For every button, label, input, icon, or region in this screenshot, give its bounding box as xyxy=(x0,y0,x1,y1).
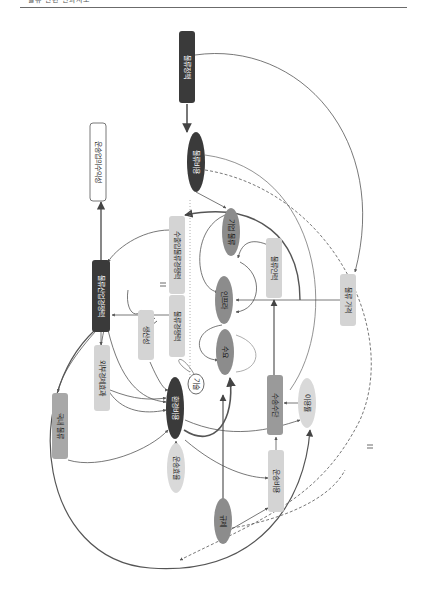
edge-inner-loop-4 xyxy=(236,335,256,372)
node-demand[interactable]: 수요 xyxy=(216,329,234,375)
node-enterprise-logistics[interactable]: 기업 물류 xyxy=(222,208,240,256)
node-label: 수출입물류경쟁력 xyxy=(173,231,182,279)
edge-domestic-to-env xyxy=(68,430,168,463)
node-label: 수요 xyxy=(221,346,229,359)
node-transport-cost[interactable]: 운송비용 xyxy=(268,450,284,512)
node-export-logistics-competitiveness[interactable]: 수출입물류경쟁력 xyxy=(169,216,185,294)
causal-loop-diagram: 물류정책 물류비용 운송업의수익성 수출입물류경쟁력 기업 물류 물류인력 xyxy=(0,0,427,589)
node-label: 외부경제효과 xyxy=(98,360,107,397)
node-label: 운송비용 xyxy=(272,469,281,494)
node-infrastructure[interactable]: 인프라 xyxy=(215,276,233,324)
node-label: 국내 물류 xyxy=(56,413,65,440)
edge-env-to-transcost xyxy=(185,440,268,478)
node-regulation[interactable]: 규제 xyxy=(214,498,232,544)
node-label: 생산성 xyxy=(142,326,151,344)
node-domestic-logistics[interactable]: 국내 물류 xyxy=(52,393,68,459)
node-label: 운송업의수익성 xyxy=(94,141,103,183)
node-usage-rate[interactable]: 이용률 xyxy=(298,378,316,428)
edge-ext-to-env xyxy=(110,390,166,399)
node-label: 수송수단 xyxy=(271,393,280,418)
edge-industry-to-env-2 xyxy=(101,330,166,412)
delay-marker-1 xyxy=(160,283,166,286)
edge-industry-to-env-1 xyxy=(108,330,166,402)
node-productivity[interactable]: 생산성 xyxy=(138,310,154,360)
node-label: 환경비용 xyxy=(171,396,180,421)
node-technology[interactable]: 기술 xyxy=(188,374,204,394)
node-label: 이용률 xyxy=(303,394,312,413)
node-label: 물류인력 xyxy=(270,256,279,280)
node-label: 운송효율 xyxy=(172,456,180,481)
edge-productivity-to-env xyxy=(150,362,168,390)
edge-industry-to-domestic xyxy=(58,332,95,392)
node-label: 물류비용 xyxy=(192,150,201,175)
node-label: 기업 물류 xyxy=(227,219,236,246)
node-logistics-cost[interactable]: 물류비용 xyxy=(187,132,205,192)
edge-cost-thick-arc xyxy=(185,212,300,300)
delay-marker-4 xyxy=(367,445,373,448)
edge-cost-to-enterprise xyxy=(196,192,226,208)
node-logistics-workforce[interactable]: 물류인력 xyxy=(266,238,282,298)
node-label: 인프라 xyxy=(220,291,229,310)
edge-inner-loop-3 xyxy=(236,262,257,312)
node-logistics-competitiveness[interactable]: 물류경쟁력 xyxy=(169,295,185,357)
node-label: 물류산업경쟁력 xyxy=(97,275,106,317)
node-logistics-price[interactable]: 물류 가격 xyxy=(340,274,356,326)
node-external-economy[interactable]: 외부경제효과 xyxy=(94,345,110,411)
node-label: 물류경쟁력 xyxy=(173,311,182,341)
edge-labor-to-enterprise xyxy=(238,242,268,258)
node-logistics-policy[interactable]: 물류정책 xyxy=(179,31,195,103)
edge-tech-loop xyxy=(179,359,194,374)
node-label: 물류정책 xyxy=(183,55,192,79)
node-transport-mode[interactable]: 수송수단 xyxy=(267,375,283,435)
node-transport-efficiency[interactable]: 운송효율 xyxy=(167,443,185,493)
node-transport-profitability[interactable]: 운송업의수익성 xyxy=(90,123,106,201)
node-label: 기술 xyxy=(192,378,201,391)
node-label: 규제 xyxy=(219,515,227,527)
nodes: 물류정책 물류비용 운송업의수익성 수출입물류경쟁력 기업 물류 물류인력 xyxy=(52,31,356,544)
node-logistics-industry-competitiveness[interactable]: 물류산업경쟁력 xyxy=(92,260,110,332)
node-environmental-cost[interactable]: 환경비용 xyxy=(166,377,184,439)
edge-export-to-industry xyxy=(108,230,170,262)
node-label: 물류 가격 xyxy=(344,287,353,313)
